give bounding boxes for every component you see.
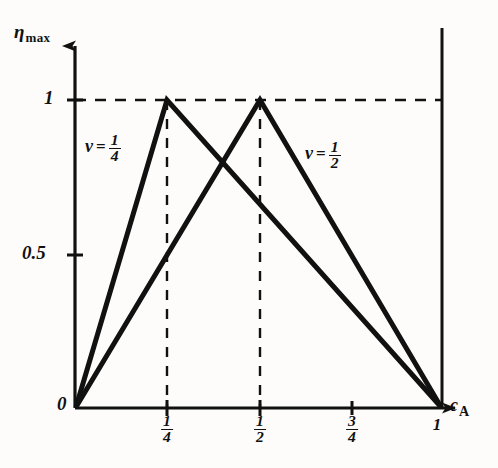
fraction-one-half: 1 2 bbox=[329, 140, 341, 171]
y-axis-title: ηmax bbox=[14, 22, 50, 44]
fraction-one-half: 1 2 bbox=[254, 414, 266, 445]
fraction-one-quarter: 1 4 bbox=[109, 133, 121, 164]
origin-label: 0 bbox=[57, 394, 67, 413]
y-axis-title-subscript: max bbox=[25, 30, 50, 45]
curve-nu-one-quarter bbox=[76, 100, 441, 407]
x-tick-label-one-quarter: 1 4 bbox=[161, 414, 173, 445]
fraction-denominator: 4 bbox=[109, 149, 121, 164]
fraction-one-quarter: 1 4 bbox=[161, 414, 173, 445]
curve-annotation-nu-one-quarter: ν= 1 4 bbox=[85, 133, 121, 164]
fraction-three-quarters: 3 4 bbox=[346, 414, 358, 445]
fraction-denominator: 4 bbox=[346, 430, 358, 445]
nu-symbol: ν bbox=[85, 136, 93, 156]
figure-container: ηmax cA 0 1 0.5 1 4 1 2 3 4 1 ν= 1 4 ν= … bbox=[0, 0, 498, 468]
y-tick-label-0-5: 0.5 bbox=[22, 243, 46, 262]
equals-sign: = bbox=[96, 137, 106, 156]
x-tick-label-one-half: 1 2 bbox=[254, 414, 266, 445]
fraction-denominator: 2 bbox=[254, 430, 266, 445]
fraction-denominator: 2 bbox=[329, 156, 341, 171]
y-tick-label-1: 1 bbox=[44, 88, 54, 107]
curve-nu-one-half bbox=[76, 100, 441, 407]
x-tick-label-1: 1 bbox=[433, 416, 442, 433]
x-axis-title-subscript: A bbox=[459, 404, 469, 419]
x-axis-title-symbol: c bbox=[450, 395, 458, 415]
x-tick-label-three-quarters: 3 4 bbox=[346, 414, 358, 445]
equals-sign: = bbox=[316, 144, 326, 163]
y-axis-title-symbol: η bbox=[14, 21, 24, 42]
curve-annotation-nu-one-half: ν= 1 2 bbox=[305, 140, 341, 171]
nu-symbol: ν bbox=[305, 143, 313, 163]
plot-canvas bbox=[0, 0, 498, 468]
fraction-denominator: 4 bbox=[161, 430, 173, 445]
x-axis-title: cA bbox=[450, 396, 469, 419]
